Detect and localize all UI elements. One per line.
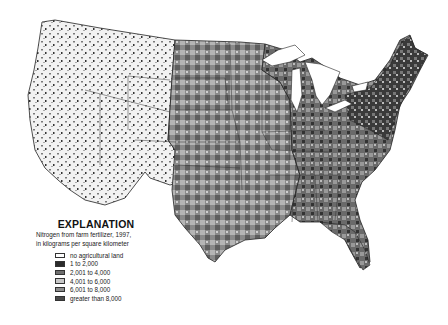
legend-item: 1 to 2,000 — [55, 260, 186, 269]
legend-item: greater than 8,000 — [55, 294, 186, 303]
swatch-icon — [55, 253, 65, 259]
legend-subtitle-1: Nitrogen from farm fertilizer, 1997, — [36, 231, 186, 239]
legend-item: 6,001 to 8,000 — [55, 285, 186, 294]
west-region — [28, 20, 180, 205]
legend-item: no agricultural land — [55, 251, 186, 260]
legend-items: no agricultural land 1 to 2,000 2,001 to… — [55, 251, 186, 303]
swatch-icon — [55, 261, 65, 267]
swatch-icon — [55, 270, 65, 276]
legend-item: 4,001 to 6,000 — [55, 277, 186, 286]
swatch-icon — [55, 287, 65, 293]
legend-item: 2,001 to 4,000 — [55, 268, 186, 277]
legend-subtitle-2: in kilograms per square kilometer — [36, 240, 186, 248]
swatch-icon — [55, 296, 65, 302]
legend-title: EXPLANATION — [36, 218, 156, 230]
swatch-icon — [55, 278, 65, 284]
legend: EXPLANATION Nitrogen from farm fertilize… — [36, 218, 186, 303]
